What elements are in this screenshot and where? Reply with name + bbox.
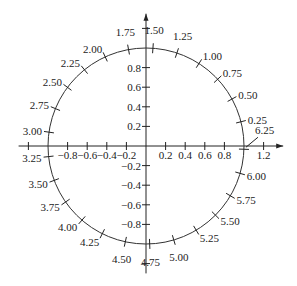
arc-label: 5.25 (200, 232, 220, 244)
arc-label: 2.75 (30, 99, 50, 111)
arc-label: 2.25 (61, 57, 81, 69)
y-tick-label: 0.8 (127, 62, 141, 74)
arc-label: 3.25 (22, 152, 42, 164)
arc-label: 1.75 (116, 26, 136, 38)
arc-tick (51, 107, 60, 111)
x-tick-label: −0.4 (97, 149, 117, 161)
arc-tick (100, 229, 104, 238)
arc-tick (63, 84, 71, 90)
arc-label: 3.00 (23, 125, 43, 137)
arc-label: 6.25 (255, 124, 275, 136)
arc-label: 6.00 (247, 170, 267, 182)
arc-tick (153, 43, 154, 53)
arc-label: 1.00 (203, 50, 223, 62)
y-tick-label: −0.2 (121, 160, 141, 172)
unit-circle-diagram: 0.250.500.751.001.251.501.752.002.252.50… (0, 0, 297, 286)
y-tick-label: 0.4 (127, 101, 141, 113)
arc-label: 5.50 (220, 215, 240, 227)
y-tick-label: −0.4 (121, 179, 141, 191)
arc-tick (226, 193, 235, 198)
y-tick-label: 0.2 (127, 120, 141, 132)
x-tick-label: 0.8 (218, 149, 232, 161)
x-tick-label: 0.4 (178, 149, 192, 161)
arc-tick (81, 66, 87, 74)
arc-tick (61, 199, 69, 205)
y-tick-label: 0.6 (127, 81, 141, 93)
arc-tick (103, 52, 107, 61)
arc-label: 4.75 (141, 256, 161, 268)
arc-tick (44, 156, 54, 157)
arc-tick (228, 97, 237, 102)
arc-label: 1.25 (173, 30, 193, 42)
x-tick-label: 1.2 (257, 149, 271, 161)
arc-label: 3.75 (41, 201, 61, 213)
x-tick-label: 0.2 (159, 149, 173, 161)
arc-tick (194, 226, 199, 235)
arc-label: 2.50 (43, 76, 63, 88)
y-tick-label: −0.6 (121, 199, 141, 211)
arc-tick (196, 59, 201, 67)
arc-label: 5.75 (236, 194, 256, 206)
arc-label: 2.00 (83, 43, 103, 55)
x-tick-label: 0.6 (198, 149, 212, 161)
x-tick-label: −0.8 (58, 149, 78, 161)
arc-tick (44, 131, 54, 132)
x-tick-label: −0.6 (77, 149, 97, 161)
arc-label: 0.75 (223, 67, 243, 79)
arc-label: 0.50 (238, 89, 258, 101)
arc-label: 3.50 (28, 178, 48, 190)
arc-label: 4.00 (58, 221, 78, 233)
arc-label: 1.50 (145, 24, 165, 36)
y-tick-label: −0.8 (121, 218, 141, 230)
arc-label: 5.00 (169, 251, 189, 263)
arc-label: 4.25 (80, 236, 100, 248)
arc-label: 4.50 (112, 253, 132, 265)
